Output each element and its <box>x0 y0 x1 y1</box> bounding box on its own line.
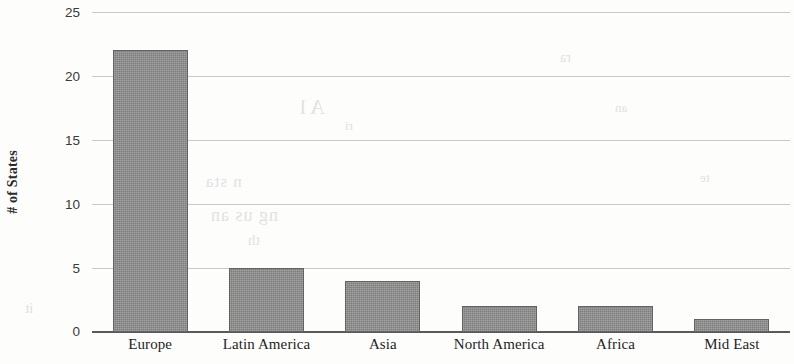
y-axis-tick-label: 20 <box>65 69 80 84</box>
x-axis-tick-label: North America <box>454 336 545 353</box>
bar <box>113 50 188 332</box>
x-axis-tick-label: Mid East <box>704 336 759 353</box>
x-axis-tick-label: Latin America <box>223 336 311 353</box>
bar-chart: A l n sta ng us an th ra an te it ri # o… <box>0 0 794 364</box>
y-axis-title: # of States <box>0 0 26 364</box>
y-axis-tick-label: 10 <box>65 197 80 212</box>
x-axis-tick-label: Asia <box>369 336 397 353</box>
bar <box>345 281 420 332</box>
x-axis-tick-label: Africa <box>596 336 635 353</box>
bar <box>462 306 537 332</box>
y-axis-tick-label: 0 <box>72 324 80 339</box>
bar <box>694 319 769 332</box>
x-axis-labels: EuropeLatin AmericaAsiaNorth AmericaAfri… <box>92 336 790 364</box>
plot-area: 0510152025 <box>92 12 790 332</box>
ghost-text: it <box>25 300 33 317</box>
bars-group <box>92 12 790 332</box>
x-axis-tick-label: Europe <box>128 336 172 353</box>
bar <box>578 306 653 332</box>
y-axis-tick-label: 5 <box>72 261 80 276</box>
bar <box>229 268 304 332</box>
y-axis-tick-label: 25 <box>65 5 80 20</box>
y-axis-tick-label: 15 <box>65 133 80 148</box>
